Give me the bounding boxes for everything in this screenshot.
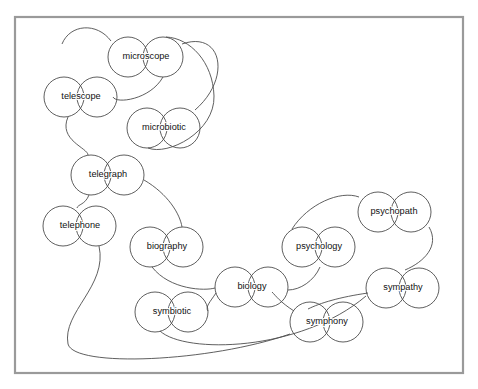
edge-biology-psychology (288, 267, 320, 290)
edge-telegraph-telephone (77, 195, 89, 208)
edge-psychopath-sympathy (405, 227, 433, 270)
edge-telescope-telegraph (66, 117, 88, 155)
node-symbiotic[interactable]: symbiotic (135, 292, 208, 332)
edge-microscope-microbiotic (182, 42, 218, 110)
edge-biology-symbiotic (207, 293, 216, 311)
node-label-microbiotic: microbiotic (142, 122, 186, 132)
node-microbiotic[interactable]: microbiotic (127, 108, 200, 148)
node-layer: microscopetelescopemicrobiotictelegrapht… (43, 37, 439, 342)
node-label-symbiotic: symbiotic (153, 306, 192, 316)
edge-microscope-telescope-scope (113, 77, 163, 100)
node-label-psychopath: psychopath (371, 206, 418, 216)
node-biology[interactable]: biology (215, 267, 288, 307)
edge-telegraph-biography (144, 180, 182, 227)
frame-layer (15, 17, 463, 373)
edge-biography-biology (152, 267, 215, 289)
diagram-frame-border (15, 17, 463, 373)
diagram-canvas: microscopetelescopemicrobiotictelegrapht… (0, 0, 478, 389)
node-microscope[interactable]: microscope (108, 37, 183, 77)
node-label-telescope: telescope (61, 91, 100, 101)
node-psychopath[interactable]: psychopath (358, 192, 431, 232)
node-telegraph[interactable]: telegraph (71, 155, 144, 195)
node-symphony[interactable]: symphony (290, 302, 363, 342)
node-label-telephone: telephone (60, 220, 100, 230)
morpheme-network-svg: microscopetelescopemicrobiotictelegrapht… (0, 0, 478, 389)
node-psychology[interactable]: psychology (282, 227, 355, 267)
node-sympathy[interactable]: sympathy (366, 268, 439, 308)
node-label-telegraph: telegraph (89, 169, 127, 179)
node-label-psychology: psychology (296, 241, 342, 251)
node-label-sympathy: sympathy (383, 282, 423, 292)
node-biography[interactable]: biography (130, 227, 203, 267)
node-label-biography: biography (147, 241, 188, 251)
node-label-biology: biology (237, 281, 267, 291)
node-telescope[interactable]: telescope (44, 77, 117, 117)
edge-microscope-telescope (62, 28, 111, 44)
edge-psychology-psychopath (292, 195, 359, 229)
node-label-microscope: microscope (123, 51, 170, 61)
node-telephone[interactable]: telephone (43, 206, 116, 246)
node-label-symphony: symphony (306, 316, 348, 326)
